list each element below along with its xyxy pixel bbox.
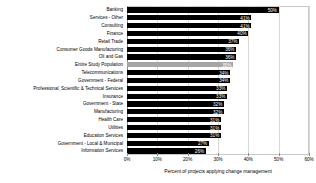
- bar-value-label: 35%: [222, 62, 231, 67]
- plot-area: 50%41%41%40%37%36%36%35%34%34%33%33%32%3…: [127, 6, 309, 155]
- bar-value-label: 41%: [240, 23, 249, 28]
- bar-value-label: 31%: [210, 125, 219, 130]
- bar: [127, 23, 251, 28]
- bar-row: 41%: [127, 15, 309, 20]
- x-tick-label: 30%: [213, 156, 222, 164]
- bar-value-label: 33%: [216, 86, 225, 91]
- category-label: Government - Federal: [78, 78, 123, 83]
- bar-value-label: 32%: [213, 109, 222, 114]
- category-label: Health Care: [98, 117, 123, 122]
- category-label: Banking: [106, 7, 123, 12]
- bar-row: 34%: [127, 70, 309, 75]
- x-tick-label: 60%: [304, 156, 313, 164]
- bar-value-label: 36%: [225, 54, 234, 59]
- bar-row: 31%: [127, 133, 309, 138]
- category-label: Professional, Scientific & Technical Ser…: [33, 86, 123, 91]
- bar-row: 31%: [127, 117, 309, 122]
- category-label: Services - Other: [90, 15, 123, 20]
- bar: [127, 101, 224, 106]
- x-axis-ticks: 0%10%20%30%40%50%60%: [127, 156, 309, 165]
- category-label: Information Services: [81, 148, 123, 153]
- bar-chart: BankingServices - OtherConsultingFinance…: [0, 0, 316, 183]
- bar-row: 36%: [127, 54, 309, 59]
- bar-value-label: 50%: [268, 7, 277, 12]
- gridline: [309, 6, 310, 155]
- x-tick-mark: [157, 153, 158, 156]
- bar: [127, 86, 227, 91]
- x-axis-title: Percent of projects applying change mana…: [127, 168, 309, 175]
- x-tick-mark: [127, 153, 128, 156]
- category-label: Retail Trade: [98, 39, 123, 44]
- bar-row: 27%: [127, 141, 309, 146]
- bar-row: 37%: [127, 39, 309, 44]
- bar-value-label: 31%: [210, 117, 219, 122]
- bar: [127, 94, 227, 99]
- bar-rows: 50%41%41%40%37%36%36%35%34%34%33%33%32%3…: [127, 6, 309, 155]
- bar-row: 41%: [127, 23, 309, 28]
- category-label: Consulting: [101, 23, 123, 28]
- bar: [127, 39, 239, 44]
- category-label: Entire Study Population: [75, 62, 123, 67]
- bar: [127, 70, 230, 75]
- category-label: Manufacturing: [94, 109, 123, 114]
- bar: [127, 54, 236, 59]
- bar: [127, 78, 230, 83]
- bar-value-label: 27%: [198, 141, 207, 146]
- x-tick-mark: [309, 153, 310, 156]
- bar-value-label: 34%: [219, 70, 228, 75]
- bar-row: 34%: [127, 78, 309, 83]
- bar: [127, 31, 248, 36]
- bar-row: 32%: [127, 109, 309, 114]
- x-tick-mark: [218, 153, 219, 156]
- bar-value-label: 36%: [225, 47, 234, 52]
- category-label: Oil and Gas: [99, 54, 123, 59]
- bar-value-label: 37%: [228, 39, 237, 44]
- bar-value-label: 32%: [213, 102, 222, 107]
- bar-value-label: 26%: [195, 149, 204, 154]
- bar: [127, 141, 209, 146]
- category-label: Utilities: [108, 125, 123, 130]
- bar-row: 33%: [127, 86, 309, 91]
- x-tick-label: 40%: [244, 156, 253, 164]
- bar: [127, 109, 224, 114]
- category-label: Finance: [107, 31, 123, 36]
- bar: [127, 47, 236, 52]
- bar: [127, 7, 279, 12]
- category-label: Telecommunications: [81, 70, 123, 75]
- x-tick-mark: [248, 153, 249, 156]
- x-tick-mark: [188, 153, 189, 156]
- bar: [127, 117, 221, 122]
- category-axis-labels: BankingServices - OtherConsultingFinance…: [0, 6, 125, 155]
- bar-row: 33%: [127, 94, 309, 99]
- bar-row: 35%: [127, 62, 309, 67]
- bar: [127, 133, 221, 138]
- bar-value-label: 40%: [237, 31, 246, 36]
- bar-row: 40%: [127, 31, 309, 36]
- x-tick-mark: [279, 153, 280, 156]
- bar-value-label: 41%: [240, 15, 249, 20]
- category-label: Consumer Goods Manufacturing: [57, 47, 123, 52]
- bar-value-label: 34%: [219, 78, 228, 83]
- bar: [127, 15, 251, 20]
- x-tick-label: 50%: [274, 156, 283, 164]
- x-tick-label: 0%: [124, 156, 131, 164]
- bar-row: 36%: [127, 47, 309, 52]
- x-tick-label: 10%: [153, 156, 162, 164]
- bar-value-label: 33%: [216, 94, 225, 99]
- bar: [127, 125, 221, 130]
- bar-value-label: 31%: [210, 133, 219, 138]
- bar: [127, 62, 233, 67]
- category-label: Insurance: [103, 94, 123, 99]
- bar-row: 32%: [127, 101, 309, 106]
- category-label: Government - Local & Municipal: [58, 141, 123, 146]
- bar-row: 31%: [127, 125, 309, 130]
- category-label: Education Services: [84, 133, 123, 138]
- category-label: Government - State: [83, 101, 123, 106]
- x-tick-label: 20%: [183, 156, 192, 164]
- bar-row: 50%: [127, 7, 309, 12]
